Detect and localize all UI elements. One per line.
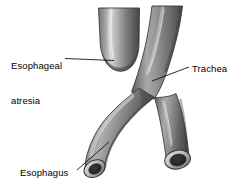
label-esophagus: Esophagus (20, 167, 68, 179)
label-trachea: Trachea (192, 63, 227, 75)
label-esophageal-atresia-line1: Esophageal (11, 60, 62, 72)
label-esophageal-atresia-line2: atresia (11, 95, 62, 107)
label-esophageal-atresia: Esophageal atresia (11, 37, 62, 129)
lower-trachea (155, 94, 193, 172)
anatomical-diagram: Esophageal atresia Trachea Esophagus (0, 0, 246, 194)
upper-esophageal-pouch (99, 8, 140, 71)
